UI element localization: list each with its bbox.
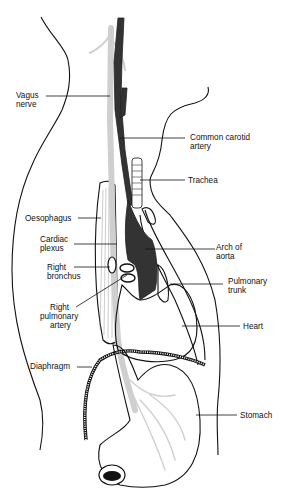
label-heart: Heart — [243, 322, 264, 331]
label-right-bronchus: Rightbronchus — [47, 263, 81, 281]
label-oesophagus: Oesophagus — [25, 214, 71, 223]
label-arch-of-aorta: Arch ofaorta — [216, 243, 243, 261]
label-diaphragm: Diaphragm — [30, 362, 70, 371]
pylorus-lumen — [103, 471, 121, 481]
body-outline-left — [12, 17, 70, 450]
label-stomach: Stomach — [240, 411, 273, 420]
label-vagus-nerve: Vagusnerve — [16, 91, 39, 109]
stomach-nerve-branches — [130, 380, 185, 470]
label-cardiac-plexus: Cardiacplexus — [40, 235, 68, 253]
right-bronchus — [108, 257, 116, 273]
label-trachea: Trachea — [188, 176, 218, 185]
right-pulmonary-artery-upper — [120, 264, 134, 272]
label-common-carotid: Common carotidartery — [190, 133, 251, 151]
diaphragm-hatch — [85, 351, 205, 440]
anatomy-diagram: Vagusnerve Common carotidartery Trachea … — [0, 0, 291, 499]
label-right-pulmonary-artery: Rightpulmonaryartery — [40, 303, 79, 330]
vagus-branch-upper — [90, 35, 110, 53]
right-pulmonary-artery-lower — [121, 274, 135, 282]
aorta-arch — [125, 200, 157, 300]
label-pulmonary-trunk: Pulmonarytrunk — [228, 277, 268, 295]
diaphragm — [85, 351, 205, 440]
